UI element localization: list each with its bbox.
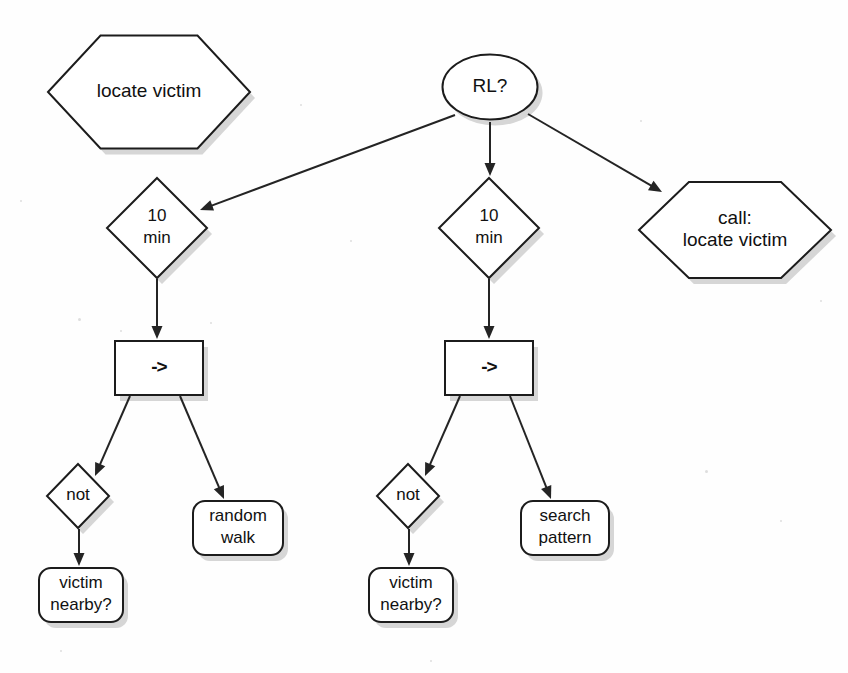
node-label: ->	[151, 356, 167, 377]
node-victim-nearby-right[interactable]: victimnearby?	[369, 568, 453, 622]
node-victim-nearby-left[interactable]: victimnearby?	[39, 568, 123, 622]
node-label: ->	[481, 356, 497, 377]
node-label: 10	[480, 206, 499, 225]
edge-ten-min-right-to-seq	[484, 279, 495, 339]
node-label: victim	[389, 573, 432, 592]
node-label: min	[143, 228, 170, 247]
node-label: RL?	[473, 75, 508, 96]
node-label: not	[66, 485, 90, 504]
node-label: nearby?	[380, 595, 441, 614]
edge-rl-to-ten-min-left	[200, 115, 455, 211]
edge-rl-to-ten-min-right	[485, 122, 496, 176]
node-not-left[interactable]: not	[47, 464, 109, 528]
edge-not-right-to-victim	[404, 529, 415, 566]
node-search-pattern[interactable]: searchpattern	[521, 501, 609, 555]
node-sequence-right[interactable]: ->	[445, 341, 533, 395]
behavior-tree-diagram: locate victimRL?10min10mincall:locate vi…	[0, 0, 848, 673]
node-label: walk	[220, 528, 256, 547]
node-label: not	[396, 485, 420, 504]
node-label: locate victim	[683, 229, 788, 250]
edge-seq-right-to-search	[510, 396, 551, 499]
node-label: nearby?	[50, 595, 111, 614]
edge-not-left-to-victim	[74, 529, 85, 566]
diagram-canvas: locate victimRL?10min10mincall:locate vi…	[0, 0, 848, 673]
edge-ten-min-left-to-seq	[152, 279, 163, 339]
node-label: 10	[148, 206, 167, 225]
node-rl-condition[interactable]: RL?	[443, 55, 538, 120]
node-random-walk[interactable]: randomwalk	[193, 501, 283, 555]
node-label: call:	[718, 207, 752, 228]
node-label: random	[209, 506, 267, 525]
node-label: pattern	[539, 528, 592, 547]
edge-seq-right-to-not	[425, 396, 460, 476]
edge-rl-to-call	[528, 114, 662, 192]
edge-seq-left-to-not	[95, 396, 130, 476]
node-sequence-left[interactable]: ->	[115, 341, 203, 395]
node-label: locate victim	[97, 80, 202, 101]
edge-seq-left-to-random	[180, 396, 224, 499]
node-label: search	[539, 506, 590, 525]
node-ten-min-right[interactable]: 10min	[439, 178, 539, 278]
node-ten-min-left[interactable]: 10min	[107, 178, 207, 278]
node-label: min	[475, 228, 502, 247]
node-not-right[interactable]: not	[377, 464, 439, 528]
node-label: victim	[59, 573, 102, 592]
